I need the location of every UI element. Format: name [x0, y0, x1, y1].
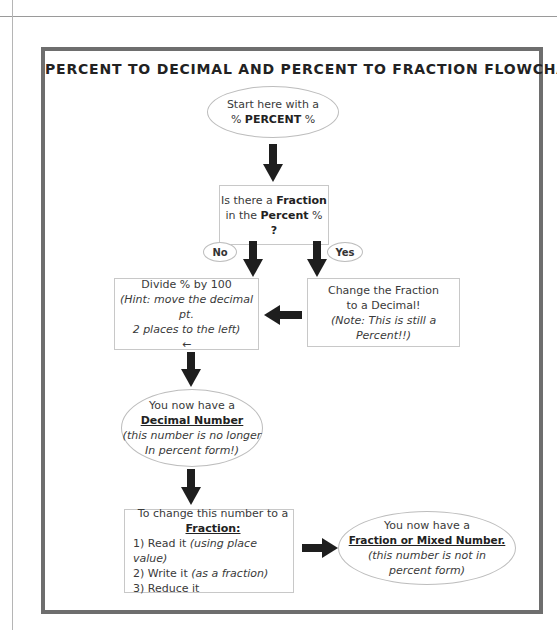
start-line2: % PERCENT %: [231, 112, 315, 127]
arrow-down-icon: [307, 241, 327, 277]
change-fraction-node: Change the Fraction to a Decimal! (Note:…: [307, 278, 460, 347]
start-node: Start here with a % PERCENT %: [207, 86, 339, 138]
divide-node: Divide % by 100 (Hint: move the decimal …: [114, 278, 259, 350]
start-line1: Start here with a: [227, 97, 319, 112]
arrow-down-icon: [263, 144, 283, 182]
fraction-result-node: You now have a Fraction or Mixed Number.…: [338, 511, 516, 585]
left-rule: [12, 0, 13, 630]
top-rule: [0, 16, 557, 17]
flowchart-frame: PERCENT TO DECIMAL AND PERCENT TO FRACTI…: [41, 47, 543, 614]
arrow-down-icon: [243, 241, 263, 277]
arrow-down-icon: [181, 352, 201, 387]
arrow-down-icon: [181, 469, 201, 505]
to-fraction-node: To change this number to a Fraction: 1) …: [124, 509, 294, 593]
left-arrow-glyph: ←: [182, 337, 191, 352]
flowchart-title: PERCENT TO DECIMAL AND PERCENT TO FRACTI…: [45, 61, 539, 77]
question-node: Is there a Fraction in the Percent % ?: [219, 185, 329, 245]
arrow-left-icon: [264, 305, 302, 325]
no-branch-label: No: [203, 242, 237, 262]
yes-branch-label: Yes: [327, 242, 363, 262]
decimal-result-node: You now have a Decimal Number (this numb…: [121, 389, 263, 467]
page: PERCENT TO DECIMAL AND PERCENT TO FRACTI…: [0, 0, 557, 630]
arrow-right-icon: [302, 538, 338, 558]
